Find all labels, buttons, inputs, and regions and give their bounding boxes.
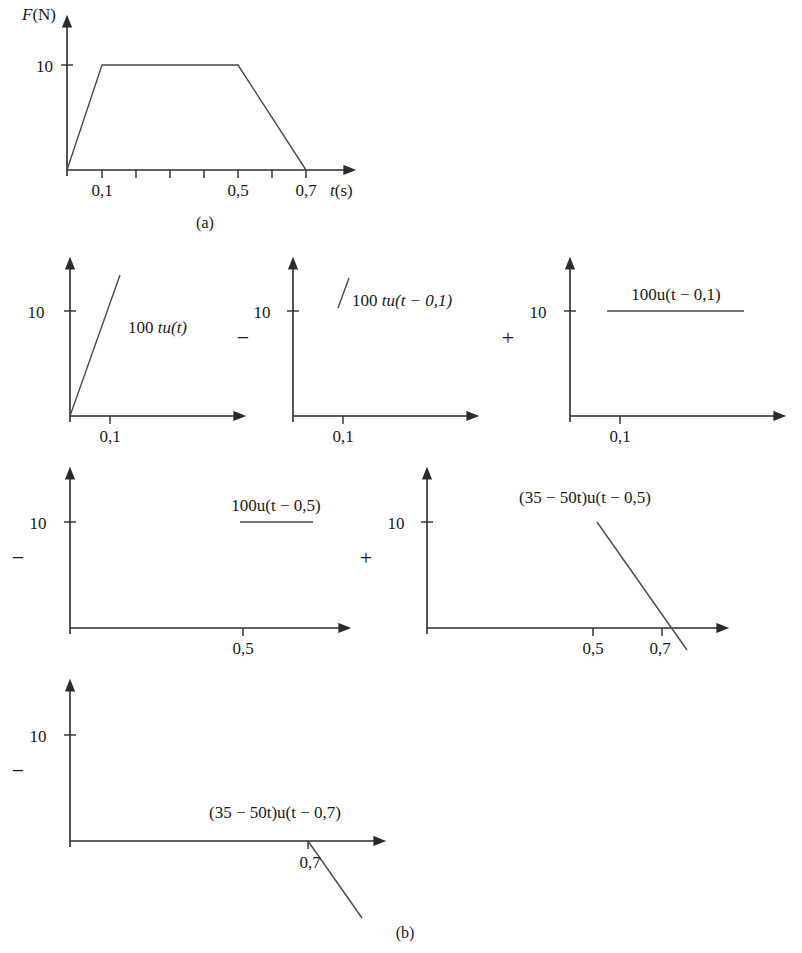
panel-b1-x-tick-label: 0,1 [99,427,120,446]
panel-b2: − 10 0,1 100 tu(t − 0,1) [237,268,468,446]
panel-b6-operator: − [12,758,24,783]
panel-b3-y-tick-label-10: 10 [530,303,547,322]
panel-b2-operator: − [237,325,249,350]
panel-b5: + 10 0,5 0,7 (35 − 50t)u(t − 0,5) [360,478,718,658]
panel-b2-expression: 100 tu(t − 0,1) [352,291,453,310]
panel-a-x-tick-label-05: 0,5 [227,181,248,200]
panel-b3: + 10 0,1 100u(t − 0,1) [502,268,775,446]
panel-b3-x-tick-label: 0,1 [609,427,630,446]
panel-a-caption: (a) [196,214,214,232]
panel-a-x-axis-label: t(s) [330,181,353,200]
panel-b2-x-tick-label: 0,1 [332,427,353,446]
panel-b6-y-tick-label-10: 10 [30,727,47,746]
panel-b4-expression: 100u(t − 0,5) [231,496,320,515]
panel-b5-ramp-curve [597,522,687,650]
panel-b2-ramp-curve [338,278,349,308]
panel-b3-operator: + [502,325,514,350]
panel-a: F(N) 10 0,1 0,5 0,7 t(s) (a) [21,5,353,232]
panel-b1-y-tick-label-10: 10 [28,303,45,322]
panel-b3-expression: 100u(t − 0,1) [631,285,720,304]
panel-b5-expression: (35 − 50t)u(t − 0,5) [519,488,651,507]
panel-b6-x-tick-label: 0,7 [299,853,321,872]
panel-b4: − 10 0,5 100u(t − 0,5) [12,478,340,658]
panel-b1: 10 0,1 100 tu(t) [28,268,236,446]
panel-b4-expr: 100u(t − 0,5) [231,496,320,515]
panel-b-caption: (b) [396,924,415,942]
panel-b5-y-tick-label-10: 10 [388,514,405,533]
panel-b6: − 10 0,7 (35 − 50t)u(t − 0,7) (b) [12,690,415,942]
panel-b2-y-tick-label-10: 10 [254,303,271,322]
panel-b1-expression: 100 tu(t) [128,318,187,337]
panel-b6-expression: (35 − 50t)u(t − 0,7) [209,803,341,822]
panel-b3-expr: 100u(t − 0,1) [631,285,720,304]
panel-b5-expr: (35 − 50t)u(t − 0,5) [519,488,651,507]
panel-b4-y-tick-label-10: 10 [30,514,47,533]
panel-b5-x-tick-label-05: 0,5 [582,639,603,658]
panel-a-x-tick-label-07: 0,7 [295,181,317,200]
panel-a-y-tick-label-10: 10 [36,57,53,76]
panel-b4-operator: − [12,545,24,570]
panel-b1-expr-body: tu(t) [158,318,188,337]
panel-b1-expr-prefix: 100 [128,318,158,337]
panel-b4-x-tick-label: 0,5 [232,639,253,658]
panel-a-y-axis-label: F(N) [21,5,56,24]
panel-b1-ramp-curve [70,275,120,416]
panel-b5-x-tick-label-07: 0,7 [649,639,671,658]
figure-page: F(N) 10 0,1 0,5 0,7 t(s) (a) 10 0,1 100 … [0,0,802,953]
panel-b2-expr-body: tu(t − 0,1) [382,291,453,310]
panel-b5-operator: + [360,545,372,570]
panel-a-x-tick-label-01: 0,1 [91,181,112,200]
figure-canvas: F(N) 10 0,1 0,5 0,7 t(s) (a) 10 0,1 100 … [0,0,802,953]
panel-a-force-curve [67,65,306,170]
panel-b2-expr-prefix: 100 [352,291,382,310]
panel-b6-expr: (35 − 50t)u(t − 0,7) [209,803,341,822]
